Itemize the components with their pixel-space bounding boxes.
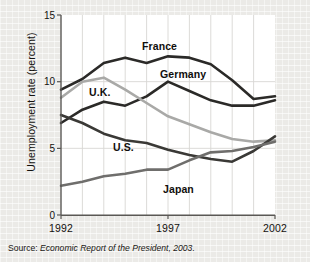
x-axis-tick-1997: 1997 [146,222,190,234]
unemployment-rate-chart-figure: Unemployment rate (percent) 15 10 5 0 19… [0,0,310,262]
source-text: Economic Report of the President, 2003. [40,243,195,253]
x-axis-tick-1992: 1992 [39,222,83,234]
x-axis-tick-2002: 2002 [253,222,297,234]
y-axis-tick-0: 0 [33,211,55,221]
y-axis-tick-15: 15 [33,11,55,21]
y-axis-tick-5: 5 [33,144,55,154]
series-label-uk: U.K. [89,86,110,98]
source-label: Source: [8,243,40,253]
series-label-japan: Japan [163,183,194,195]
series-label-germany: Germany [160,68,206,80]
source-note: Source: Economic Report of the President… [8,243,195,253]
y-axis-title: Unemployment rate (percent) [25,7,37,197]
series-label-us: U.S. [113,141,134,153]
y-axis-tick-10: 10 [33,77,55,87]
series-label-france: France [142,40,177,52]
